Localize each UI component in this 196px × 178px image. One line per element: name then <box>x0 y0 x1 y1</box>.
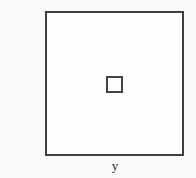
figure-canvas: y <box>0 0 196 178</box>
inner-square-shape <box>106 76 123 93</box>
bottom-axis-label: y <box>0 159 196 173</box>
